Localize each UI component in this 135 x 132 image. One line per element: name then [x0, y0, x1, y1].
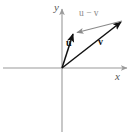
vector-u-minus-v-label: u − v — [79, 8, 99, 18]
vector-v-label: v — [98, 36, 103, 47]
vector-u-label: u — [66, 37, 72, 48]
vector-figure: y x u v u − v — [0, 0, 135, 132]
y-axis-label: y — [53, 1, 59, 13]
vector-u-minus-v-group: u − v — [77, 8, 122, 33]
vector-diagram-canvas: y x u v u − v — [0, 0, 135, 132]
x-axis-label: x — [114, 70, 120, 82]
